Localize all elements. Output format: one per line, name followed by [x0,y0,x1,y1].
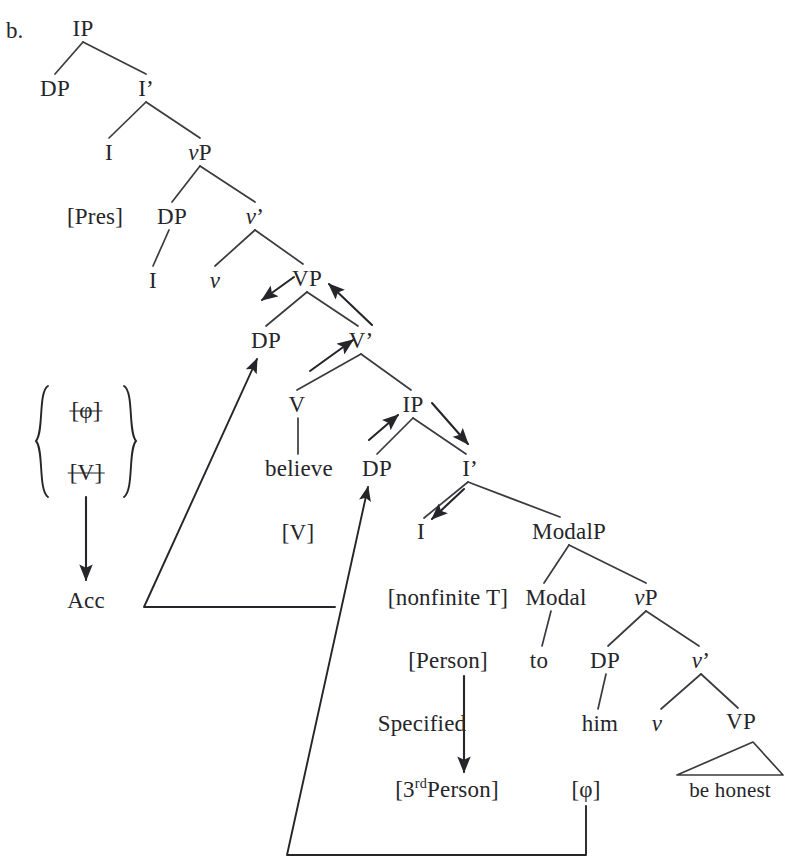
node-believe: believe [265,457,333,480]
node-vbar-big: V’ [349,329,374,352]
node-little-v: v [210,269,220,292]
node-dp-subject: DP [40,77,70,100]
node-ip-embedded: IP [403,393,424,416]
node-be-honest: be honest [689,780,771,801]
node-ibar-top: I’ [138,77,154,100]
struck-v-text: [V] [70,461,103,484]
node-dp-ecm: DP [362,457,392,480]
node-nonfinite-t: [nonfinite T] [388,586,508,609]
node-i-embedded: I [417,520,425,543]
struck-phi-text: [φ] [71,399,100,422]
node-little-vp-top-suffix: P [199,140,212,165]
tree-lines-and-arrows [0,0,794,867]
node-little-v-embedded: v [652,712,662,735]
node-little-vp-top: vP [188,141,211,164]
node-little-vp-embedded: vP [634,586,657,609]
node-modal: Modal [525,586,586,609]
node-ibar-embedded: I’ [462,457,478,480]
node-person-feature: [Person] [408,649,488,672]
node-specified: Specified [378,712,467,735]
node-phi-feature: [φ] [571,778,600,801]
node-i-under-dp: I [149,269,157,292]
node-v-feature: [V] [282,521,315,544]
struck-v-feature: [V] [70,461,103,484]
node-him: him [582,712,618,735]
node-to: to [530,649,548,672]
node-acc-result: Acc [67,589,105,612]
ordinal-suffix: rd [415,775,427,791]
node-dp-him: DP [590,649,620,672]
syntax-tree-figure: b. IP DP I’ I vP [Pres] DP v’ I v VP DP … [0,0,794,867]
figure-enumeration-label: b. [6,18,23,44]
node-dp-spec-vp: DP [157,205,187,228]
node-i-top: I [105,141,113,164]
node-ip-top: IP [73,17,94,40]
node-vp-big: VP [292,267,322,290]
dp-object-movement-path [144,359,335,607]
node-modalp: ModalP [532,520,606,543]
node-little-vbar-embedded: v’ [692,649,710,672]
node-dp-object: DP [251,329,281,352]
node-v-head: V [289,393,306,416]
node-third-person: [3rdPerson] [395,778,499,801]
struck-phi-feature: [φ] [71,399,100,422]
node-pres-feature: [Pres] [67,205,123,228]
node-little-vbar: v’ [246,205,264,228]
node-vp-final: VP [726,710,756,733]
